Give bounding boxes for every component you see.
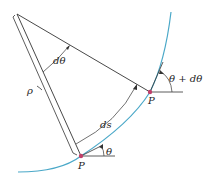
point-upper-marker xyxy=(148,90,152,94)
radius-lower-outline-top xyxy=(13,15,15,17)
label-point-upper: P xyxy=(147,95,155,106)
label-rho: ρ xyxy=(26,85,33,96)
curvature-diagram: dθ ρ ds θ θ + dθ P P xyxy=(0,0,214,181)
radius-lower-outline xyxy=(13,17,73,153)
radius-upper xyxy=(17,14,150,92)
label-theta: θ xyxy=(106,146,112,157)
label-ds: ds xyxy=(100,119,112,130)
angle-arrow-upper-icon xyxy=(159,70,164,74)
radius-lower-outline-end xyxy=(73,153,77,155)
ds-arrow-icon xyxy=(133,84,137,90)
point-lower-marker xyxy=(79,154,83,158)
tangent-upper xyxy=(150,62,163,92)
rho-bracket xyxy=(37,86,42,90)
label-dtheta: dθ xyxy=(53,55,65,66)
ds-arc xyxy=(76,86,136,144)
label-point-lower: P xyxy=(77,160,85,171)
label-theta-plus-dtheta: θ + dθ xyxy=(169,73,202,84)
